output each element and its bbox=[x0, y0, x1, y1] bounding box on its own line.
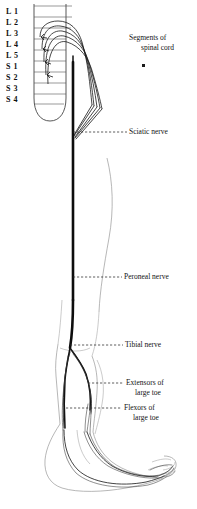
segment-label-s1: S 1 bbox=[6, 63, 18, 71]
nerve-root-loops bbox=[40, 21, 102, 109]
toe-outline-4 bbox=[152, 459, 171, 462]
foot-dorsum-outline bbox=[93, 432, 160, 478]
sciatic-trunk-group bbox=[73, 56, 102, 300]
label-extensors-large-toe: Extensors of large toe bbox=[126, 378, 164, 398]
segment-label-l4: L 4 bbox=[6, 41, 18, 49]
segment-label-l2: L 2 bbox=[6, 19, 18, 27]
nerve-branches-group bbox=[62, 300, 91, 434]
lower-leg-lateral-outline bbox=[92, 356, 97, 432]
root-converge-2 bbox=[74, 106, 94, 136]
label-tibial-nerve: Tibial nerve bbox=[125, 340, 161, 349]
lower-leg-medial-outline bbox=[56, 344, 60, 424]
label-flexors-line1: Flexors of bbox=[124, 403, 155, 412]
peroneal-nerve-branch-2 bbox=[71, 350, 91, 412]
foot-nerve-dorsal-1 bbox=[87, 432, 158, 477]
segment-label-s4: S 4 bbox=[6, 96, 18, 104]
sciatic-lower-trunk bbox=[70, 300, 73, 348]
foot-group bbox=[45, 424, 176, 491]
peroneal-distal-2 bbox=[90, 412, 91, 434]
label-flexors-large-toe: Flexors of large toe bbox=[124, 403, 159, 423]
label-peroneal-nerve: Peroneal nerve bbox=[124, 272, 169, 281]
segment-label-l1: L 1 bbox=[6, 8, 18, 16]
label-sciatic-nerve-text: Sciatic nerve bbox=[129, 127, 168, 136]
anatomical-figure: L 1 L 2 L 3 L 4 L 5 S 1 S 2 S 3 S 4 Segm… bbox=[0, 0, 197, 509]
peroneal-distal-1 bbox=[87, 410, 90, 432]
hip-lateral-outline bbox=[99, 158, 112, 312]
thigh-medial-outline bbox=[58, 300, 62, 344]
thigh-lateral-lower-outline bbox=[92, 312, 99, 356]
nerve-root-s3 bbox=[48, 42, 102, 109]
peroneal-nerve-fiber bbox=[73, 354, 91, 414]
segment-label-s2: S 2 bbox=[6, 74, 18, 82]
segment-label-l5: L 5 bbox=[6, 52, 18, 60]
segment-label-s3: S 3 bbox=[6, 85, 18, 93]
label-sciatic-nerve: Sciatic nerve bbox=[129, 127, 168, 136]
spinal-cord-caption-line2: spinal cord bbox=[129, 43, 174, 53]
segment-label-l3: L 3 bbox=[6, 30, 18, 38]
nerve-root-s1 bbox=[44, 31, 97, 107]
leader-lines-group bbox=[66, 132, 127, 408]
spinal-cord-caption-line1: Segments of bbox=[129, 33, 166, 42]
root-converge-3 bbox=[75, 107, 97, 137]
label-peroneal-nerve-text: Peroneal nerve bbox=[124, 272, 169, 281]
sciatic-nerve-diagram bbox=[0, 0, 197, 509]
great-toe-nerve-5 bbox=[150, 465, 172, 470]
label-extensors-line1: Extensors of bbox=[126, 378, 164, 387]
label-extensors-line2: large toe bbox=[126, 388, 164, 398]
label-flexors-line2: large toe bbox=[124, 413, 159, 423]
label-tibial-nerve-text: Tibial nerve bbox=[125, 340, 161, 349]
spinal-cord-caption: Segments of spinal cord bbox=[129, 33, 174, 53]
dot-marker bbox=[142, 64, 145, 67]
knee-crease bbox=[60, 348, 90, 351]
